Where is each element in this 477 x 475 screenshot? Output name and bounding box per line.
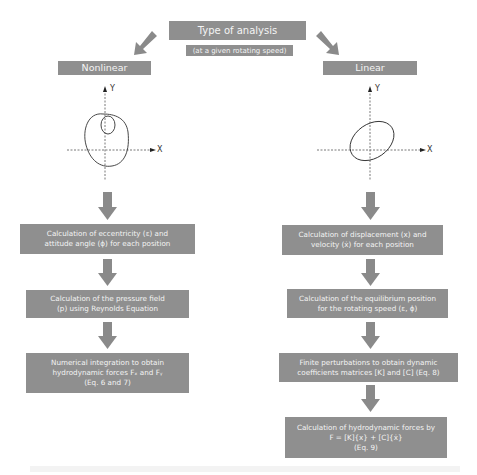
x-axis-label: X	[157, 145, 162, 154]
step-text: attitude angle (ϕ) for each position	[20, 239, 195, 249]
nonlinear-step-3: Numerical integration to obtain hydrodyn…	[26, 353, 189, 393]
nonlinear-step-2: Calculation of the pressure field (p) us…	[26, 290, 189, 318]
nonlinear-orbit-plot	[67, 86, 156, 180]
arrow-down-icon	[361, 322, 380, 349]
linear-step-4: Calculation of hydrodynamic forces by F …	[285, 417, 447, 458]
step-text: hydrodynamic forces Fₓ and Fᵧ	[26, 368, 189, 378]
y-axis-label: Y	[110, 84, 115, 93]
linear-label: Linear	[323, 61, 417, 75]
linear-label-text: Linear	[323, 63, 417, 73]
step-text: velocity (ẋ) for each position	[282, 240, 443, 250]
step-text: for the rotating speed (ε, ϕ)	[287, 304, 448, 314]
arrow-down-icon	[98, 259, 117, 286]
arrow-down-left-icon	[134, 31, 157, 55]
step-text: Finite perturbations to obtain dynamic	[279, 358, 458, 368]
step-text: Calculation of hydrodynamic forces by	[285, 423, 447, 433]
header-title: Type of analysis	[169, 24, 306, 38]
nonlinear-label-text: Nonlinear	[58, 63, 151, 73]
cropped-caption-remnant	[30, 466, 460, 472]
arrow-down-icon	[361, 192, 380, 220]
linear-orbit-plot	[317, 86, 426, 180]
nonlinear-label: Nonlinear	[58, 61, 151, 75]
x-axis-label: X	[427, 145, 432, 154]
step-text: (p) using Reynolds Equation	[26, 304, 189, 314]
step-text: coefficients matrices [K] and [C] (Eq. 8…	[279, 368, 458, 378]
step-text: Calculation of the pressure field	[26, 294, 189, 304]
arrow-down-icon	[361, 385, 380, 412]
nonlinear-step-1: Calculation of eccentricity (ε) and atti…	[20, 224, 195, 254]
step-text: (Eq. 9)	[285, 443, 447, 453]
linear-step-1: Calculation of displacement (x) and velo…	[282, 225, 443, 255]
step-text: Numerical integration to obtain	[26, 358, 189, 368]
step-text: (Eq. 6 and 7)	[26, 378, 189, 388]
step-text: F = [K]{x} + [C]{ẋ}	[285, 433, 447, 443]
linear-step-2: Calculation of the equilibrium position …	[287, 289, 448, 318]
analysis-type-subtitle: (at a given rotating speed)	[186, 45, 293, 56]
arrow-down-right-icon	[316, 31, 339, 55]
arrow-down-icon	[98, 322, 117, 349]
arrow-down-icon	[98, 192, 117, 220]
step-text: Calculation of displacement (x) and	[282, 230, 443, 240]
linear-step-3: Finite perturbations to obtain dynamic c…	[279, 353, 458, 382]
step-text: Calculation of eccentricity (ε) and	[20, 229, 195, 239]
header-subtitle: (at a given rotating speed)	[186, 46, 293, 56]
y-axis-label: Y	[375, 84, 380, 93]
step-text: Calculation of the equilibrium position	[287, 294, 448, 304]
analysis-type-header: Type of analysis	[169, 21, 306, 40]
arrow-down-icon	[361, 259, 380, 286]
